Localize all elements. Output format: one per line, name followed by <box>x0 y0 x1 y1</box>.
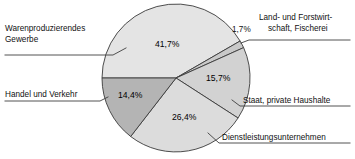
callout-label-warenproduzierendes-line1: Warenproduzierendes <box>5 24 85 33</box>
slice-value-handel-verkehr: 14,4% <box>118 90 143 100</box>
callout-label-dienstleistungsunternehmen: Dienstleistungsunternehmen <box>222 133 326 142</box>
pie-chart-svg: Warenproduzierendes Gewerbe Land- und Fo… <box>0 0 355 159</box>
leader-line-land-forstwirtschaft <box>241 40 350 43</box>
callout-label-handel-verkehr: Handel und Verkehr <box>5 90 78 99</box>
callout-label-staat-haushalte: Staat, private Haushalte <box>243 96 331 105</box>
slice-value-staat-haushalte: 15,7% <box>206 73 231 83</box>
pie-chart-figure: Warenproduzierendes Gewerbe Land- und Fo… <box>0 0 355 159</box>
callout-label-land-forstwirtschaft-line1: Land- und Forstwirt- <box>259 13 333 22</box>
slice-value-dienstleistungsunternehmen: 26,4% <box>172 112 197 122</box>
callout-label-land-forstwirtschaft-line2: schaft, Fischerei <box>268 24 328 33</box>
slice-value-warenproduzierendes: 41,7% <box>155 39 180 49</box>
callout-label-warenproduzierendes-line2: Gewerbe <box>5 35 39 44</box>
slice-value-land-forstwirtschaft: 1,7% <box>232 25 251 34</box>
